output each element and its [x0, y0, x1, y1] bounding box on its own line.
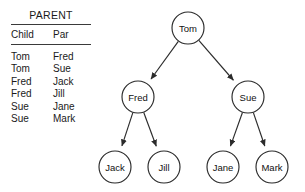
tree-node-sue: Sue — [232, 81, 264, 113]
table-row: Tom Fred — [11, 51, 91, 63]
cell-child: Sue — [11, 113, 53, 125]
cell-child: Tom — [11, 51, 53, 63]
tree-node-jane: Jane — [207, 151, 239, 183]
tree-edge-fred-to-jack — [122, 113, 133, 146]
parent-relation-table: PARENT Child Par Tom Fred Tom Sue Fred J… — [11, 9, 91, 125]
node-circle-jill — [148, 151, 180, 183]
tree-node-mark: Mark — [256, 151, 288, 183]
table-header-row: Child Par — [11, 25, 91, 44]
tree-node-jill: Jill — [148, 151, 180, 183]
node-label-sue: Sue — [240, 92, 257, 103]
node-circle-jane — [207, 151, 239, 183]
table-row: Fred Jill — [11, 88, 91, 100]
tree-node-fred: Fred — [122, 81, 154, 113]
cell-par: Jack — [53, 76, 91, 88]
cell-par: Jill — [53, 88, 91, 100]
tree-edge-sue-to-jane — [230, 113, 242, 147]
node-label-tom: Tom — [179, 23, 197, 34]
node-circle-mark — [256, 151, 288, 183]
cell-par: Sue — [53, 63, 91, 75]
node-circle-sue — [232, 81, 264, 113]
tree-edges — [122, 40, 265, 146]
cell-child: Fred — [11, 88, 53, 100]
table-row: Sue Mark — [11, 113, 91, 125]
node-label-jill: Jill — [158, 162, 169, 173]
tree-edge-tom-to-sue — [199, 40, 234, 80]
column-header-par: Par — [53, 29, 91, 40]
cell-child: Fred — [11, 76, 53, 88]
tree-node-tom: Tom — [172, 12, 204, 44]
cell-par: Fred — [53, 51, 91, 63]
table-row: Tom Sue — [11, 63, 91, 75]
node-label-mark: Mark — [261, 162, 282, 173]
cell-par: Jane — [53, 101, 91, 113]
cell-par: Mark — [53, 113, 91, 125]
table-body: Tom Fred Tom Sue Fred Jack Fred Jill Sue… — [11, 45, 91, 125]
tree-edge-tom-to-fred — [151, 41, 178, 79]
column-header-child: Child — [11, 29, 53, 40]
table-row: Fred Jack — [11, 76, 91, 88]
table-title: PARENT — [11, 9, 91, 24]
node-label-jack: Jack — [105, 162, 125, 173]
tree-edge-fred-to-jill — [144, 112, 157, 146]
node-circle-tom — [172, 12, 204, 44]
cell-child: Sue — [11, 101, 53, 113]
tree-edge-sue-to-mark — [253, 113, 264, 146]
cell-child: Tom — [11, 63, 53, 75]
node-circle-jack — [99, 151, 131, 183]
diagram-page: PARENT Child Par Tom Fred Tom Sue Fred J… — [0, 0, 305, 192]
table-row: Sue Jane — [11, 101, 91, 113]
tree-nodes: TomFredSueJackJillJaneMark — [99, 12, 288, 183]
node-label-fred: Fred — [128, 92, 148, 103]
node-circle-fred — [122, 81, 154, 113]
node-label-jane: Jane — [213, 162, 234, 173]
tree-node-jack: Jack — [99, 151, 131, 183]
